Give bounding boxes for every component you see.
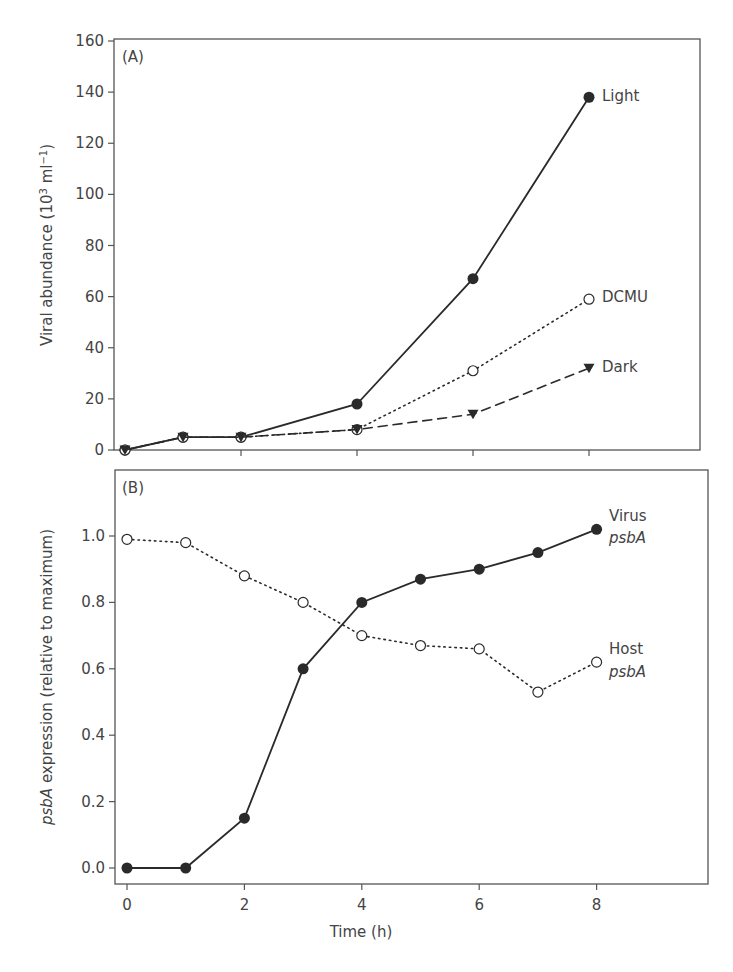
data-point-filled-circle bbox=[584, 92, 595, 103]
panel-b: (B) 0.00.20.40.60.81.0 02468 psbA expres… bbox=[38, 470, 708, 941]
figure: (A) 020406080100120140160 Viral abundanc… bbox=[0, 0, 733, 972]
y-tick-label: 40 bbox=[85, 339, 104, 357]
panel-b-y-axis-title: psbA expression (relative to maximum) bbox=[38, 529, 56, 826]
panel-b-series bbox=[122, 524, 603, 874]
panel-a-series bbox=[120, 92, 595, 456]
data-point-open-circle bbox=[533, 687, 543, 697]
y-tick-label: 120 bbox=[75, 134, 104, 152]
y-tick-label: 100 bbox=[75, 185, 104, 203]
data-point-open-circle bbox=[468, 366, 478, 376]
data-point-filled-circle bbox=[122, 863, 133, 874]
data-point-open-circle bbox=[584, 294, 594, 304]
series-label-dark: Dark bbox=[602, 358, 638, 376]
y-tick-label: 0.2 bbox=[81, 793, 105, 811]
data-point-filled-circle bbox=[356, 597, 367, 608]
series-label-virus: Virus bbox=[609, 507, 647, 525]
series-label-host-gene: psbA bbox=[608, 663, 646, 681]
y-tick-label: 0.8 bbox=[81, 593, 105, 611]
series-label-virus-gene: psbA bbox=[608, 529, 646, 547]
y-tick-label: 160 bbox=[75, 32, 104, 50]
series-label-light: Light bbox=[602, 87, 640, 105]
x-tick-label: 8 bbox=[592, 896, 602, 914]
y-tick-label: 0 bbox=[94, 441, 104, 459]
data-point-open-circle bbox=[181, 538, 191, 548]
series-label-dcmu: DCMU bbox=[602, 288, 648, 306]
data-point-open-circle bbox=[357, 631, 367, 641]
data-point-open-circle bbox=[416, 641, 426, 651]
y-tick-label: 1.0 bbox=[81, 527, 105, 545]
data-point-open-circle bbox=[239, 571, 249, 581]
data-point-open-circle bbox=[298, 597, 308, 607]
y-tick-label: 60 bbox=[85, 288, 104, 306]
panel-b-y-axis: 0.00.20.40.60.81.0 bbox=[81, 527, 115, 877]
series-line-virus-psba bbox=[127, 529, 597, 868]
data-point-open-circle bbox=[474, 644, 484, 654]
data-point-filled-circle bbox=[532, 547, 543, 558]
panel-b-x-axis: 02468 bbox=[122, 884, 601, 914]
data-point-filled-circle bbox=[468, 273, 479, 284]
panel-b-label: (B) bbox=[122, 479, 144, 497]
panel-a-label: (A) bbox=[122, 48, 144, 66]
panel-a: (A) 020406080100120140160 Viral abundanc… bbox=[38, 32, 701, 459]
data-point-open-circle bbox=[122, 534, 132, 544]
y-tick-label: 80 bbox=[85, 237, 104, 255]
data-point-filled-circle bbox=[474, 564, 485, 575]
y-tick-label: 0.0 bbox=[81, 859, 105, 877]
x-tick-label: 0 bbox=[122, 896, 132, 914]
data-point-filled-circle bbox=[415, 574, 426, 585]
y-tick-label: 0.4 bbox=[81, 726, 105, 744]
y-tick-label: 0.6 bbox=[81, 660, 105, 678]
data-point-filled-circle bbox=[352, 398, 363, 409]
data-point-filled-circle bbox=[239, 813, 250, 824]
series-label-host: Host bbox=[609, 640, 643, 658]
x-tick-label: 4 bbox=[357, 896, 367, 914]
y-tick-label: 20 bbox=[85, 390, 104, 408]
panel-a-y-axis: 020406080100120140160 bbox=[75, 32, 114, 459]
data-point-filled-circle bbox=[298, 663, 309, 674]
x-axis-title: Time (h) bbox=[329, 923, 393, 941]
panel-a-y-axis-title: Viral abundance (103 ml−1) bbox=[38, 144, 57, 346]
panel-a-x-axis bbox=[125, 450, 589, 456]
series-line-light bbox=[125, 97, 589, 450]
data-point-filled-circle bbox=[591, 524, 602, 535]
data-point-filled-circle bbox=[180, 863, 191, 874]
data-point-open-circle bbox=[592, 657, 602, 667]
x-tick-label: 6 bbox=[474, 896, 484, 914]
series-line-host-psba bbox=[127, 539, 597, 692]
x-tick-label: 2 bbox=[240, 896, 250, 914]
data-point-triangle bbox=[584, 364, 595, 374]
y-tick-label: 140 bbox=[75, 83, 104, 101]
